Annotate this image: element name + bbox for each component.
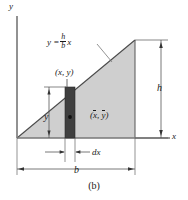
centroid-y-bar: y [102, 111, 106, 120]
strip-height-label: y [44, 112, 48, 122]
figure-caption: (b) [0, 180, 188, 191]
line-equation-label: y =hbx [47, 33, 71, 50]
base-dimension-label: b [74, 165, 79, 175]
h-arrow-top [159, 42, 163, 48]
y-axis-label: y [9, 2, 13, 11]
dx-arrow-left [60, 150, 65, 153]
height-dimension-label: h [157, 83, 162, 93]
equation-leader [97, 44, 112, 62]
h-arrow-bottom [159, 130, 163, 136]
figure-drawing [0, 0, 188, 200]
equation-lhs: y = [47, 37, 59, 47]
differential-strip [65, 87, 75, 138]
b-arrow-right [128, 167, 134, 170]
equation-denominator: b [60, 41, 66, 50]
equation-fraction: hb [60, 33, 66, 50]
dx-arrow-right [75, 150, 80, 153]
b-arrow-left [18, 167, 24, 170]
y-arrow-top [47, 89, 50, 95]
centroid-paren-close: ) [106, 110, 109, 120]
equation-numerator: h [60, 33, 66, 41]
centroid-point [68, 115, 72, 119]
strip-width-label: dx [92, 148, 101, 157]
figure-container: y x y =hbx (x, y) (x, y) h b y dx (b) [0, 0, 188, 200]
equation-variable: x [67, 37, 71, 47]
centroid-x-bar: x [93, 111, 97, 120]
point-xy-label: (x, y) [55, 68, 73, 77]
centroid-label: (x, y) [90, 111, 109, 120]
x-axis-label: x [172, 132, 176, 141]
